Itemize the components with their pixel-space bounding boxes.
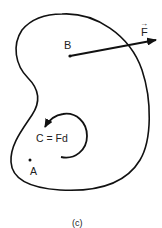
point-a-dot — [29, 159, 32, 162]
label-f: F — [141, 26, 148, 38]
body-outline — [11, 14, 149, 190]
label-couple: C = Fd — [36, 132, 68, 144]
figure-caption: (c) — [72, 218, 83, 228]
force-arrow — [70, 40, 156, 56]
label-a: A — [30, 165, 37, 177]
free-body-diagram: B → F C = Fd A (c) — [0, 0, 162, 228]
label-b: B — [64, 39, 71, 51]
